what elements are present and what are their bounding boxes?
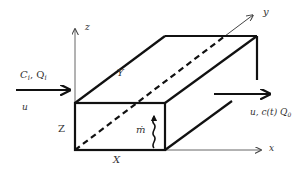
z-axis-label: z bbox=[84, 22, 90, 32]
inflow-velocity-label: u bbox=[22, 102, 28, 112]
dimension-z-label: Z bbox=[58, 123, 65, 134]
dimension-y-label: Y bbox=[117, 67, 125, 78]
inflow-label: Ci, Qi bbox=[20, 69, 47, 82]
outflow-label: u, c(t) Q0 bbox=[250, 107, 291, 118]
control-volume-diagram: z y x Y Z X Ci, Qi u u, c(t) Q0 ṁ bbox=[0, 0, 305, 175]
x-axis-label: x bbox=[269, 143, 274, 153]
source-label: ṁ bbox=[136, 124, 145, 135]
front-face bbox=[75, 103, 165, 150]
dimension-x-label: X bbox=[112, 154, 121, 165]
source-wavy-arrow bbox=[153, 116, 155, 148]
y-axis-label: y bbox=[262, 6, 269, 17]
